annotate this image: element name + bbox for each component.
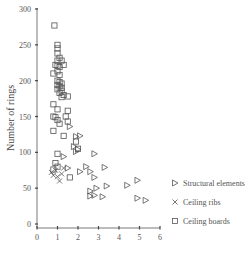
scatter-chart: 050100150200250300 0123456 Number of rin… [0, 0, 251, 256]
x-tick-label: 3 [97, 233, 101, 242]
data-point [51, 173, 56, 178]
x-marker-icon [173, 200, 178, 205]
series-structural-elements [61, 124, 148, 204]
legend: Structural elementsCeiling ribsCeiling b… [172, 179, 245, 226]
x-tick-label: 1 [56, 233, 60, 242]
data-point [94, 185, 100, 191]
data-point [52, 23, 57, 28]
data-point [100, 194, 106, 200]
data-point [65, 108, 70, 113]
data-point [92, 151, 98, 157]
triangle-marker-icon [173, 180, 179, 186]
legend-label: Structural elements [183, 179, 245, 188]
data-points [49, 23, 149, 203]
y-tick-label: 50 [23, 184, 31, 193]
data-point [55, 42, 60, 47]
y-ticks: 050100150200250300 [19, 5, 38, 229]
y-tick-label: 250 [19, 41, 31, 50]
data-point [63, 114, 68, 119]
data-point [55, 107, 60, 112]
data-point [61, 133, 66, 138]
x-tick-label: 4 [117, 233, 121, 242]
data-point [55, 46, 60, 51]
x-tick-label: 6 [158, 233, 162, 242]
data-point [57, 121, 62, 126]
x-tick-label: 2 [76, 233, 80, 242]
data-point [55, 151, 60, 156]
square-marker-icon [172, 218, 177, 223]
data-point [67, 175, 72, 180]
x-tick-label: 5 [138, 233, 142, 242]
data-point [78, 169, 84, 175]
data-point [143, 197, 149, 203]
data-point [61, 154, 67, 160]
data-point [51, 102, 56, 107]
data-point [125, 182, 131, 188]
data-point [59, 171, 64, 176]
data-point [57, 72, 62, 77]
y-tick-label: 300 [19, 5, 31, 14]
data-point [104, 183, 110, 189]
data-point [88, 169, 94, 175]
data-point [53, 160, 58, 165]
data-point [92, 174, 98, 180]
data-point [73, 139, 78, 144]
data-point [135, 177, 141, 183]
y-tick-label: 200 [19, 77, 31, 86]
y-axis-label: Number of rings [5, 85, 16, 151]
y-tick-label: 100 [19, 148, 31, 157]
series-ceiling-ribs [49, 166, 66, 184]
data-point [135, 195, 141, 201]
x-tick-label: 0 [35, 233, 39, 242]
axes: 050100150200250300 0123456 [19, 5, 162, 242]
data-point [102, 164, 108, 170]
legend-label: Ceiling ribs [183, 198, 221, 207]
legend-label: Ceiling boards [183, 217, 230, 226]
data-point [51, 128, 56, 133]
y-tick-label: 0 [27, 220, 31, 229]
y-tick-label: 150 [19, 113, 31, 122]
